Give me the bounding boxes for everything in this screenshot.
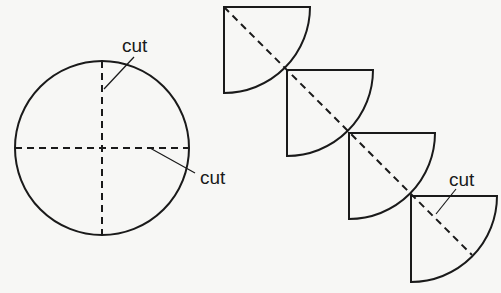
diagram-svg: cut cut cut xyxy=(0,0,501,293)
cut-label-vertical: cut xyxy=(122,35,148,56)
cut-label-horizontal: cut xyxy=(200,167,226,188)
cutting-diagram: cut cut cut xyxy=(0,0,501,293)
quarter-circle-4 xyxy=(411,196,497,282)
cut-label-quarter: cut xyxy=(449,169,475,190)
leader-line-quarter-cut xyxy=(436,189,456,214)
